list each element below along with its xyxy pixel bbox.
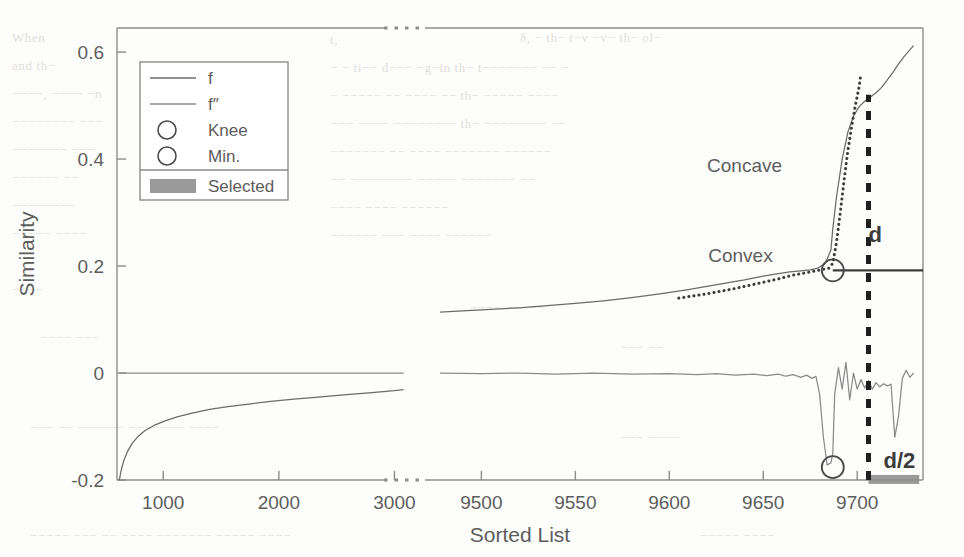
y-tick-label: 0.6 [78, 42, 104, 63]
x-tick-label: 3000 [373, 492, 415, 513]
d-label: d [869, 222, 882, 247]
y-tick-label: -0.2 [71, 470, 104, 491]
y-axis-title: Similarity [15, 211, 38, 297]
d-half-label: d/2 [884, 448, 916, 473]
series-f2-right [440, 362, 914, 465]
x-tick-label: 9500 [460, 492, 502, 513]
y-tick-label: 0.4 [78, 149, 105, 170]
chart-canvas: -0.200.20.40.610002000300095009550960096… [0, 0, 964, 557]
legend-label-f: f″ [208, 95, 219, 114]
x-tick-label: 1000 [142, 492, 184, 513]
x-tick-label: 2000 [258, 492, 300, 513]
y-tick-label: 0 [93, 363, 104, 384]
legend-label-min: Min. [208, 147, 240, 166]
x-tick-label: 9550 [554, 492, 596, 513]
x-axis-title: Sorted List [470, 523, 571, 546]
x-tick-label: 9700 [836, 492, 878, 513]
series-f-left [119, 390, 403, 480]
y-tick-label: 0.2 [78, 256, 104, 277]
legend-label-knee: Knee [208, 121, 248, 140]
convex-label: Convex [708, 245, 773, 266]
legend: ff″KneeMin.Selected [140, 62, 288, 200]
x-tick-label: 9600 [648, 492, 690, 513]
legend-label-selected: Selected [208, 177, 274, 196]
legend-label-f: f [208, 69, 213, 88]
figure-page: When t, δ, − th− t−v −v− th− ol− and th−… [0, 0, 964, 557]
series-f-right [440, 46, 914, 312]
marker-min[interactable] [822, 456, 844, 478]
x-tick-label: 9650 [742, 492, 784, 513]
legend-swatch-patch [150, 179, 196, 193]
concave-label: Concave [707, 155, 782, 176]
